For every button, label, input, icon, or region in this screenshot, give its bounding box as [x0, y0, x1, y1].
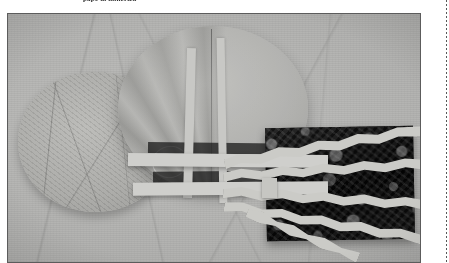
photograph-frame	[7, 13, 421, 263]
ribbon-convergence-hub	[262, 178, 277, 198]
photograph	[8, 14, 420, 262]
figure-caption: pape di mincriza	[83, 0, 283, 4]
document-page: pape di mincriza	[0, 0, 449, 263]
page-margin-rule	[446, 0, 447, 263]
